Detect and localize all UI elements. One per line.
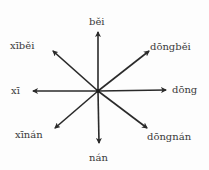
- label-west: xī: [11, 86, 20, 96]
- compass-diagram: běi xīběi dōngběi xī dōng xīnán dōngnán …: [0, 0, 209, 170]
- arrow-southwest: [55, 91, 98, 128]
- arrow-northwest: [53, 51, 98, 91]
- label-northwest: xīběi: [10, 41, 34, 51]
- label-southeast: dōngnán: [147, 132, 191, 142]
- arrow-northeast: [98, 51, 149, 91]
- label-south: nán: [89, 153, 108, 163]
- center-point: [96, 89, 100, 93]
- label-northeast: dōngběi: [150, 42, 191, 52]
- arrow-southeast: [98, 91, 147, 128]
- label-east: dōng: [172, 85, 197, 95]
- label-north: běi: [89, 17, 105, 27]
- arrow-south: [98, 91, 99, 143]
- arrow-east: [98, 90, 166, 91]
- label-southwest: xīnán: [15, 130, 43, 140]
